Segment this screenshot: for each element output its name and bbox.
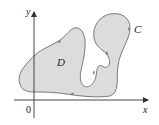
x-axis-label: x bbox=[142, 104, 148, 115]
curve-label: C bbox=[134, 23, 142, 35]
y-axis-label: y bbox=[25, 6, 31, 17]
region-d bbox=[19, 14, 130, 97]
arrow-icon bbox=[93, 71, 96, 75]
origin-label: 0 bbox=[26, 104, 31, 115]
diagram-canvas: y x 0 D C bbox=[0, 0, 159, 125]
region-label: D bbox=[56, 56, 65, 68]
